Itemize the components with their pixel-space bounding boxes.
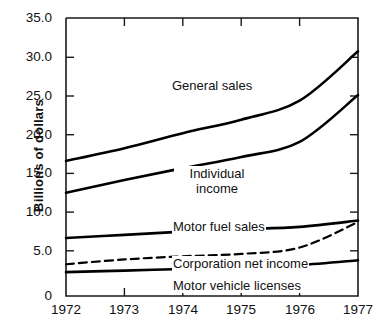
x-tick-label-1977: 1977 — [328, 303, 381, 317]
x-tick-label-1973: 1973 — [94, 303, 154, 317]
series-label-general-sales: General sales — [171, 78, 253, 93]
series-label-individual-income-line2: income — [196, 181, 238, 196]
y-tick-label-5: 5.0 — [6, 244, 52, 258]
chart-figure: Billions of dollars 35.0 30.0 25.0 20.0 … — [0, 0, 381, 328]
y-tick-label-25: 25.0 — [6, 89, 52, 103]
series-line-general-sales — [66, 51, 358, 161]
x-tick-label-1974: 1974 — [153, 303, 213, 317]
y-axis-ticks — [66, 57, 74, 251]
series-label-individual-income: Individual income — [174, 166, 260, 196]
y-axis-title: Billions of dollars — [31, 56, 46, 256]
series-label-individual-income-line1: Individual — [190, 166, 245, 181]
y-tick-label-0: 0 — [6, 289, 52, 303]
x-tick-label-1976: 1976 — [270, 303, 330, 317]
y-tick-label-35: 35.0 — [6, 11, 52, 25]
y-tick-label-30: 30.0 — [6, 50, 52, 64]
x-tick-label-1972: 1972 — [36, 303, 96, 317]
x-tick-label-1975: 1975 — [211, 303, 271, 317]
y-tick-label-10: 10.0 — [6, 205, 52, 219]
series-label-corporation-net-income: Corporation net income — [172, 256, 309, 271]
y-tick-label-20: 20.0 — [6, 128, 52, 142]
series-label-motor-fuel-sales: Motor fuel sales — [172, 219, 266, 234]
series-label-motor-vehicle-licenses: Motor vehicle licenses — [172, 278, 302, 293]
y-tick-label-15: 15.0 — [6, 166, 52, 180]
